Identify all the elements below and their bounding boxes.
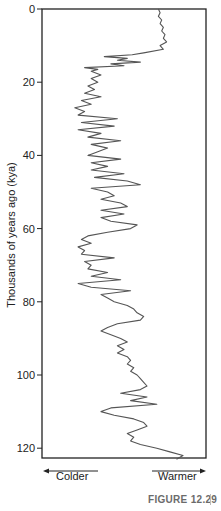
colder-label: Colder	[56, 470, 88, 482]
figure-caption: FIGURE 12.29	[148, 494, 217, 505]
climate-chart: 020406080100120 Thousands of years ago (…	[0, 0, 221, 511]
y-axis-label: Thousands of years ago (kya)	[5, 162, 17, 308]
y-tick-label: 40	[23, 149, 35, 161]
y-tick-label: 20	[23, 76, 35, 88]
y-tick-label: 120	[17, 442, 35, 454]
temperature-curve	[75, 9, 183, 459]
caption-divider	[210, 494, 211, 505]
y-tick-label: 80	[23, 296, 35, 308]
y-tick-label: 0	[29, 3, 35, 15]
y-tick-label: 100	[17, 369, 35, 381]
warmer-label: Warmer	[158, 470, 197, 482]
plot-frame	[42, 9, 206, 458]
y-axis-ticks: 020406080100120	[17, 3, 42, 454]
y-tick-label: 60	[23, 223, 35, 235]
